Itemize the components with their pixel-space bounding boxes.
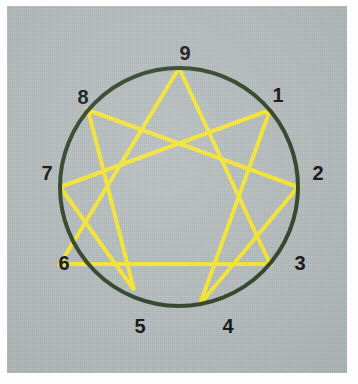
enneagram-point-label-3: 3: [290, 253, 310, 273]
enneagram-circle: [60, 68, 298, 306]
enneagram-point-label-1: 1: [268, 85, 288, 105]
enneagram-point-label-6: 6: [54, 253, 74, 273]
enneagram-point-label-9: 9: [175, 43, 195, 63]
enneagram-point-label-2: 2: [308, 163, 328, 183]
enneagram-point-label-8: 8: [73, 87, 93, 107]
page-root: 123456789: [0, 0, 358, 384]
enneagram-point-label-5: 5: [130, 316, 150, 336]
enneagram-panel: 123456789: [7, 6, 347, 373]
enneagram-point-label-7: 7: [37, 163, 57, 183]
enneagram-point-label-4: 4: [218, 316, 238, 336]
